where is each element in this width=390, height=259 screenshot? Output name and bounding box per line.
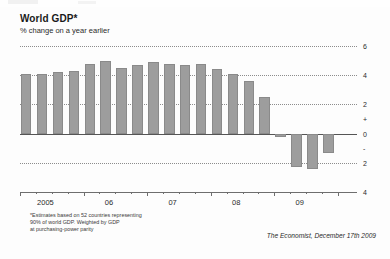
x-axis-label-08: 08 xyxy=(232,198,240,207)
x-axis-label-07: 07 xyxy=(168,198,176,207)
x-tick xyxy=(227,192,228,194)
y-axis-tick-3: + xyxy=(363,116,367,123)
y-axis-tick-7: 4 xyxy=(363,189,383,196)
bar xyxy=(259,97,269,134)
bar xyxy=(212,69,222,133)
bar-series xyxy=(20,46,357,192)
chart-plot-area: 642+0-24 200506070809 xyxy=(20,46,357,192)
bar xyxy=(180,65,190,134)
bar xyxy=(132,65,142,134)
x-tick xyxy=(84,192,85,196)
bar xyxy=(37,74,47,134)
y-axis-tick-2: 2 xyxy=(363,101,383,108)
x-tick xyxy=(68,192,69,194)
artifact-smudge-left xyxy=(8,0,38,4)
x-tick xyxy=(99,192,100,194)
x-tick xyxy=(211,192,212,196)
x-tick xyxy=(115,192,116,194)
bar xyxy=(69,71,79,134)
chart-subtitle: % change on a year earlier xyxy=(20,26,110,35)
x-tick xyxy=(131,192,132,194)
chart-page: World GDP* % change on a year earlier 64… xyxy=(0,0,390,259)
x-tick xyxy=(274,192,275,196)
y-axis-tick-1: 4 xyxy=(363,72,383,79)
chart-footnote: *Estimates based on 52 countries represe… xyxy=(30,212,142,234)
x-tick xyxy=(322,192,323,194)
bar xyxy=(148,62,158,134)
bar xyxy=(244,81,254,134)
artifact-smudge-right xyxy=(78,1,96,4)
bar xyxy=(275,134,285,137)
x-tick xyxy=(306,192,307,194)
x-axis-label-09: 09 xyxy=(296,198,304,207)
y-axis-tick-6: 2 xyxy=(363,159,383,166)
x-axis-label-06: 06 xyxy=(105,198,113,207)
bar xyxy=(116,68,126,134)
x-axis-label-2005: 2005 xyxy=(37,198,54,207)
x-tick xyxy=(147,192,148,196)
bar xyxy=(196,64,206,134)
x-tick xyxy=(258,192,259,194)
bar xyxy=(164,64,174,134)
y-axis-tick-5: - xyxy=(363,145,365,152)
x-tick xyxy=(52,192,53,194)
y-axis-tick-4: 0 xyxy=(363,130,383,137)
bar xyxy=(228,74,238,134)
x-tick xyxy=(243,192,244,194)
x-tick xyxy=(20,192,21,196)
x-tick xyxy=(36,192,37,194)
x-tick xyxy=(338,192,339,196)
x-tick xyxy=(195,192,196,194)
bar xyxy=(21,74,31,134)
bar xyxy=(323,134,333,153)
x-tick xyxy=(163,192,164,194)
bar xyxy=(291,134,301,168)
page-title: World GDP* xyxy=(20,13,77,24)
x-tick xyxy=(179,192,180,194)
chart-source: The Economist, December 17th 2009 xyxy=(267,232,376,239)
bar xyxy=(307,134,317,169)
x-tick xyxy=(290,192,291,194)
page-top-artifact xyxy=(0,0,390,7)
bar xyxy=(53,72,63,133)
bar xyxy=(100,61,110,134)
bar xyxy=(85,64,95,134)
y-axis-tick-0: 6 xyxy=(363,43,383,50)
